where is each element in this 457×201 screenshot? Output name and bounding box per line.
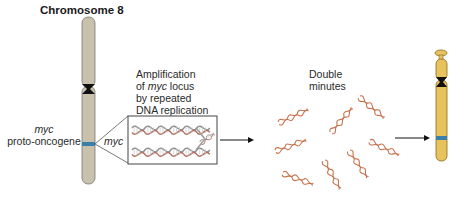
diagram-graphics bbox=[0, 0, 457, 201]
double-minutes bbox=[274, 95, 400, 190]
normal-chromosome-8 bbox=[82, 17, 95, 184]
amplified-chromosome bbox=[435, 50, 447, 161]
